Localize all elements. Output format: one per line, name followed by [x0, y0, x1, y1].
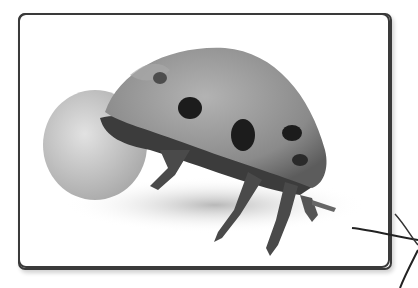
- ladybug-photo: [0, 0, 418, 288]
- spot: [282, 125, 302, 141]
- spot: [292, 154, 308, 166]
- photo-stage: [0, 0, 418, 288]
- protruding-leg: [400, 250, 418, 288]
- spot: [153, 72, 167, 84]
- spot: [231, 119, 255, 151]
- spot: [178, 97, 202, 119]
- protruding-antenna: [352, 228, 418, 240]
- protruding-leg: [395, 214, 418, 245]
- photo-content: [43, 48, 365, 256]
